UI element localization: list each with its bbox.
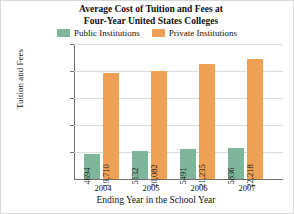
x-tick-label: 2006 (178, 183, 220, 193)
y-tick-mark (70, 71, 74, 72)
y-tick-mark (70, 44, 74, 45)
bar-value-label: 5491 (178, 168, 188, 185)
bar-group: 549121,235 (178, 44, 220, 179)
chart-legend: Public Institutions Private Institutions (57, 28, 289, 38)
y-tick-mark (70, 125, 74, 126)
y-tick-mark (70, 152, 74, 153)
x-axis-title: Ending Year in the School Year (41, 195, 271, 205)
bar-public[interactable]: 5132 (132, 151, 148, 179)
chart-title: Average Cost of Tuition and Fees at Four… (43, 4, 259, 27)
bar-value-label: 5132 (130, 168, 140, 185)
y-axis-line (74, 44, 75, 180)
bar-private[interactable]: 20,082 (151, 71, 167, 179)
x-tick-label: 2007 (226, 183, 268, 193)
bar-public[interactable]: 4694 (84, 154, 100, 179)
legend-swatch-private (152, 29, 165, 37)
bar-private[interactable]: 19,710 (103, 73, 119, 179)
chart-title-line-1: Average Cost of Tuition and Fees at (43, 4, 259, 16)
legend-item-private: Private Institutions (152, 28, 237, 38)
bar-public[interactable]: 5491 (180, 149, 196, 179)
bar-group: 469419,710 (82, 44, 124, 179)
bar-public[interactable]: 5836 (228, 148, 244, 180)
bar-group: 513220,082 (130, 44, 172, 179)
bar-private[interactable]: 21,235 (199, 64, 215, 179)
bar-group: 583622,218 (226, 44, 268, 179)
legend-label-public: Public Institutions (74, 28, 140, 38)
legend-item-public: Public Institutions (57, 28, 140, 38)
bar-private[interactable]: 22,218 (247, 59, 263, 179)
x-tick-label: 2004 (82, 183, 124, 193)
y-tick-mark (70, 98, 74, 99)
chart-title-line-2: Four-Year United States Colleges (43, 16, 259, 28)
chart-figure: Average Cost of Tuition and Fees at Four… (0, 0, 294, 214)
x-tick-label: 2005 (130, 183, 172, 193)
legend-swatch-public (57, 29, 70, 37)
y-axis-title: Tuition and Fees (15, 19, 25, 139)
plot-area: $5,000$10,000$15,000$20,000$25,000 46941… (74, 44, 283, 180)
legend-label-private: Private Institutions (169, 28, 237, 38)
bar-value-label: 5836 (226, 168, 236, 185)
bar-value-label: 4694 (82, 168, 92, 185)
